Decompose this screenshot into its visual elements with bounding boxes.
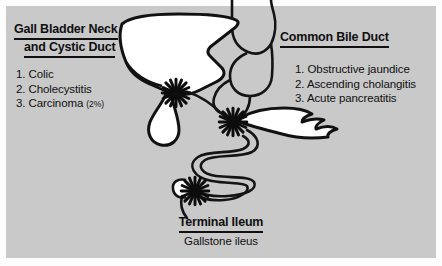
- gall-bladder-neck-heading-line2: and Cystic Duct: [24, 40, 115, 58]
- list-item-label: Ascending cholangitis: [307, 78, 416, 90]
- list-item: 3. Acute pancreatitis: [295, 91, 416, 106]
- list-item-number: 3.: [295, 92, 304, 104]
- pancreas: [240, 108, 337, 138]
- list-item-label: Cholecystitis: [29, 83, 92, 95]
- list-item-note: (2%): [86, 99, 104, 109]
- gallstone-cystic-duct: [162, 79, 190, 107]
- list-item-number: 1.: [16, 68, 25, 80]
- list-item: 3. Carcinoma (2%): [16, 96, 104, 112]
- gallbladder: [149, 94, 179, 145]
- list-item: 1. Obstructive jaundice: [295, 62, 416, 77]
- gallstone-terminal-ileum: [181, 177, 209, 205]
- stomach-duodenum-outline: [232, 0, 275, 54]
- list-item-number: 3.: [16, 97, 25, 109]
- terminal-ileum-heading-label: Terminal Ileum: [179, 215, 264, 233]
- gall-bladder-neck-list: 1. Colic 2. Cholecystitis 3. Carcinoma (…: [16, 67, 104, 112]
- list-item-label: Acute pancreatitis: [307, 92, 397, 104]
- common-bile-duct-heading-label: Common Bile Duct: [280, 30, 389, 48]
- list-item-number: 2.: [16, 83, 25, 95]
- list-item-number: 1.: [295, 63, 304, 75]
- list-item: 2. Ascending cholangitis: [295, 77, 416, 92]
- list-item: 2. Cholecystitis: [16, 82, 104, 97]
- gallstone-common-bile-duct: [219, 108, 247, 136]
- gall-bladder-neck-heading: Gall Bladder Neck and Cystic Duct: [14, 22, 118, 58]
- list-item: 1. Colic: [16, 67, 104, 82]
- list-item-label: Obstructive jaundice: [308, 63, 410, 75]
- terminal-ileum-subtitle: Gallstone ileus: [0, 235, 442, 247]
- terminal-ileum-caption: Terminal Ileum Gallstone ileus: [0, 215, 442, 247]
- list-item-number: 2.: [295, 78, 304, 90]
- list-item-label: Carcinoma: [29, 97, 84, 109]
- common-bile-duct-list: 1. Obstructive jaundice 2. Ascending cho…: [295, 62, 416, 106]
- list-item-label: Colic: [29, 68, 54, 80]
- gall-bladder-neck-heading-line1: Gall Bladder Neck: [14, 22, 118, 40]
- common-bile-duct-heading: Common Bile Duct: [280, 30, 389, 48]
- gallstone-complications-diagram: Gall Bladder Neck and Cystic Duct 1. Col…: [0, 0, 442, 266]
